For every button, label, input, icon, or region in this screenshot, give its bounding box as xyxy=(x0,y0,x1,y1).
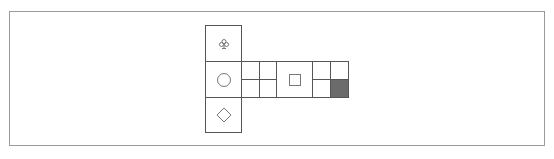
grid-cell-r1c3[interactable] xyxy=(312,61,331,80)
grid-cell-mid-left[interactable] xyxy=(205,61,242,98)
club-icon xyxy=(206,26,241,61)
grid-cell-bottom-left[interactable] xyxy=(205,97,242,133)
grid-cell-r2c3[interactable] xyxy=(312,79,331,98)
grid-cell-r2c1[interactable] xyxy=(241,79,260,98)
circle-icon xyxy=(206,62,241,97)
grid-cell-top-left[interactable] xyxy=(205,25,242,62)
diamond-icon xyxy=(206,98,241,132)
grid-cell-center[interactable] xyxy=(276,61,313,98)
grid-cell-r1c2[interactable] xyxy=(259,61,277,80)
grid-cell-r2c2[interactable] xyxy=(259,79,277,98)
grid-cell-r2c4[interactable] xyxy=(330,79,349,98)
grid-cell-r1c4[interactable] xyxy=(330,61,349,80)
grid-cell-r1c1[interactable] xyxy=(241,61,260,80)
square-icon xyxy=(277,62,312,97)
